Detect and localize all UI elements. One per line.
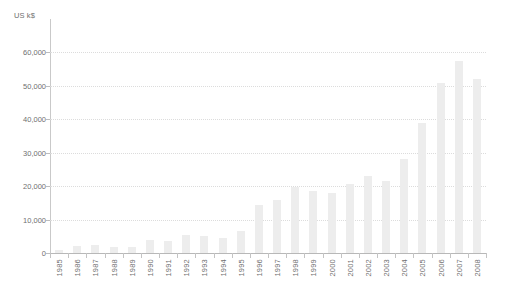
bar	[437, 83, 445, 253]
y-tick-label: 60,000	[2, 48, 46, 57]
y-tick-label: 10,000	[2, 215, 46, 224]
x-tick-mark	[105, 253, 106, 258]
x-tick-mark	[359, 253, 360, 258]
x-tick-mark	[341, 253, 342, 258]
bar	[400, 159, 408, 253]
bar-chart: US k$ 010,00020,00030,00040,00050,00060,…	[0, 0, 505, 295]
x-tick-label: 2000	[328, 259, 337, 277]
x-tick-label: 2003	[382, 259, 391, 277]
x-tick-mark	[323, 253, 324, 258]
x-tick-mark	[432, 253, 433, 258]
bar	[146, 240, 154, 253]
x-tick-mark	[395, 253, 396, 258]
x-tick-label: 1994	[219, 259, 228, 277]
bar	[237, 231, 245, 253]
x-tick-label: 1998	[291, 259, 300, 277]
x-tick-mark	[195, 253, 196, 258]
x-tick-label: 1999	[309, 259, 318, 277]
bar	[309, 191, 317, 253]
bar	[200, 236, 208, 253]
x-tick-label: 2001	[346, 259, 355, 277]
x-tick-mark	[486, 253, 487, 258]
y-tick-label: 20,000	[2, 182, 46, 191]
x-tick-label: 1990	[146, 259, 155, 277]
bar	[364, 176, 372, 253]
x-tick-mark	[232, 253, 233, 258]
x-tick-label: 2005	[418, 259, 427, 277]
x-tick-mark	[413, 253, 414, 258]
x-tick-label: 1997	[273, 259, 282, 277]
bars-layer	[50, 19, 486, 253]
x-tick-label: 2008	[473, 259, 482, 277]
x-tick-label: 2002	[364, 259, 373, 277]
y-tick-label: 0	[2, 249, 46, 258]
x-tick-mark	[250, 253, 251, 258]
bar	[382, 181, 390, 253]
x-tick-mark	[68, 253, 69, 258]
y-tick-label: 30,000	[2, 148, 46, 157]
y-tick-label: 40,000	[2, 115, 46, 124]
y-tick-label: 50,000	[2, 81, 46, 90]
bar	[418, 123, 426, 253]
x-tick-mark	[141, 253, 142, 258]
x-tick-mark	[268, 253, 269, 258]
x-tick-label: 2004	[400, 259, 409, 277]
x-tick-label: 1986	[73, 259, 82, 277]
x-tick-mark	[286, 253, 287, 258]
x-tick-mark	[214, 253, 215, 258]
x-tick-label: 2007	[455, 259, 464, 277]
bar	[473, 79, 481, 253]
x-tick-label: 1987	[91, 259, 100, 277]
x-tick-label: 1991	[164, 259, 173, 277]
bar	[328, 193, 336, 253]
x-tick-mark	[86, 253, 87, 258]
x-tick-mark	[177, 253, 178, 258]
bar	[219, 238, 227, 253]
x-tick-label: 1988	[110, 259, 119, 277]
x-tick-mark	[377, 253, 378, 258]
bar	[164, 241, 172, 253]
x-tick-label: 1993	[200, 259, 209, 277]
x-tick-mark	[450, 253, 451, 258]
bar	[455, 61, 463, 253]
x-tick-label: 2006	[437, 259, 446, 277]
bar	[291, 187, 299, 253]
bar	[91, 245, 99, 253]
x-tick-label: 1995	[237, 259, 246, 277]
x-axis-tick-labels: 1985198619871988198919901991199219931994…	[50, 259, 486, 293]
x-tick-label: 1985	[55, 259, 64, 277]
bar	[255, 205, 263, 253]
bar	[346, 184, 354, 253]
plot-area	[50, 19, 486, 253]
x-tick-label: 1989	[128, 259, 137, 277]
x-tick-mark	[123, 253, 124, 258]
y-axis-tick-labels: 010,00020,00030,00040,00050,00060,000	[0, 19, 46, 253]
x-tick-mark	[304, 253, 305, 258]
bar	[182, 235, 190, 253]
x-tick-mark	[50, 253, 51, 258]
x-tick-label: 1996	[255, 259, 264, 277]
x-tick-mark	[159, 253, 160, 258]
x-tick-label: 1992	[182, 259, 191, 277]
bar	[273, 200, 281, 253]
x-tick-mark	[468, 253, 469, 258]
bar	[73, 246, 81, 253]
